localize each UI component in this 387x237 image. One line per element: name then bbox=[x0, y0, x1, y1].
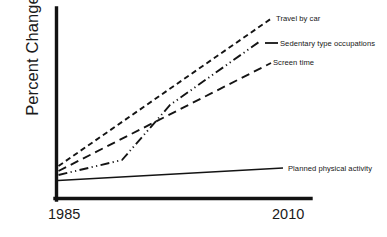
series-line-screen-time bbox=[59, 63, 272, 171]
series-label-travel-by-car: Travel by car bbox=[276, 14, 320, 23]
y-axis-label: Percent Change bbox=[23, 0, 42, 132]
x-axis-tick-label-end: 2010 bbox=[272, 206, 304, 222]
chart-plot-area bbox=[0, 0, 387, 237]
series-label-planned-physical-activity: Planned physical activity bbox=[288, 164, 372, 173]
series-line-travel-by-car bbox=[59, 18, 273, 166]
series-label-screen-time: Screen time bbox=[273, 58, 314, 67]
x-axis-tick-label-start: 1985 bbox=[48, 206, 80, 222]
chart-container: Percent Change 1985 2010 Travel by car S… bbox=[0, 0, 387, 237]
series-label-sedentary-type-occupations: Sedentary type occupations bbox=[280, 39, 375, 48]
series-line-planned-physical-activity bbox=[58, 168, 283, 181]
